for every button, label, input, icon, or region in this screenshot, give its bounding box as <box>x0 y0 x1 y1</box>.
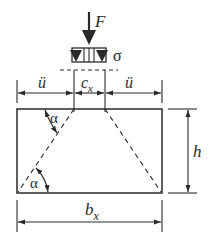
base-width-label: bx <box>85 200 100 223</box>
force-label: F <box>94 12 106 31</box>
height-label: h <box>193 142 202 161</box>
load-dispersion-lines <box>18 109 161 192</box>
footing-outline <box>17 109 162 193</box>
stress-label: σ <box>113 47 122 64</box>
overhang-left-label: ü <box>38 74 46 91</box>
angle-bottom-label: α <box>30 175 38 191</box>
overhang-right-label: ü <box>125 74 133 91</box>
force-arrow <box>82 12 96 45</box>
angle-top-label: α <box>50 110 58 126</box>
stress-block <box>70 48 108 62</box>
column-width-label: cx <box>81 74 93 94</box>
footing-diagram: F σ ü ü cx α α <box>0 0 216 248</box>
